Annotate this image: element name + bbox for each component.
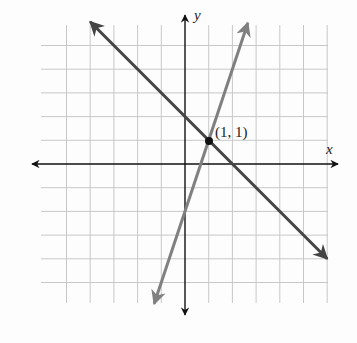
coordinate-plane-figure: (1, 1) x y [0,0,357,343]
point-label: (1, 1) [215,124,248,141]
x-axis-label: x [325,141,333,157]
graph-svg: (1, 1) x y [0,0,357,343]
intersection-point [205,137,213,145]
axes [32,15,338,315]
y-axis-label: y [192,7,201,23]
